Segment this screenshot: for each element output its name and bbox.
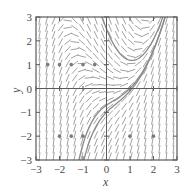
slope-segment xyxy=(92,97,99,102)
point-marker xyxy=(152,134,156,138)
slope-segment xyxy=(159,102,160,110)
slope-segment xyxy=(66,88,69,96)
slope-segment xyxy=(151,60,154,68)
slope-segment xyxy=(60,145,61,153)
slope-segment xyxy=(113,77,121,79)
slope-segment xyxy=(94,31,98,39)
slope-segment xyxy=(129,24,134,31)
slope-segment xyxy=(60,102,62,110)
point-marker xyxy=(46,63,50,67)
slope-segment xyxy=(39,16,41,24)
slope-segment xyxy=(108,124,112,131)
slope-segment xyxy=(151,74,153,82)
slope-segment xyxy=(78,69,86,72)
slope-segment xyxy=(122,103,127,110)
slope-segment xyxy=(109,17,112,25)
slope-segment xyxy=(130,117,133,125)
slope-segment xyxy=(144,88,147,96)
slope-segment xyxy=(53,102,54,110)
slope-segment xyxy=(159,124,160,132)
slope-segment xyxy=(85,62,93,66)
slope-segment xyxy=(101,138,104,146)
slope-segment xyxy=(39,95,40,103)
slope-segment xyxy=(115,124,119,131)
slope-segment xyxy=(152,152,153,160)
slope-segment xyxy=(60,152,61,160)
slope-segment xyxy=(173,38,174,46)
slope-segment xyxy=(137,117,139,125)
slope-segment xyxy=(151,95,153,103)
slope-segment xyxy=(144,124,146,132)
slope-segment xyxy=(108,138,111,146)
slope-segment xyxy=(79,32,84,38)
slope-segment xyxy=(46,52,48,60)
point-marker xyxy=(93,63,97,67)
slope-segment xyxy=(86,96,92,102)
slope-segment xyxy=(53,88,55,96)
slope-segment xyxy=(52,24,55,32)
slope-segment xyxy=(137,131,139,139)
slope-segment xyxy=(85,83,93,86)
slope-segment xyxy=(144,131,146,139)
slope-segment xyxy=(92,77,100,79)
slope-segment xyxy=(122,24,126,32)
slope-segment xyxy=(71,55,79,59)
y-tick-label: 0 xyxy=(27,83,33,95)
slope-segment xyxy=(108,117,113,124)
slope-segment xyxy=(123,138,126,146)
slope-segment xyxy=(79,39,85,44)
slope-segment xyxy=(39,66,40,74)
slope-segment xyxy=(78,55,86,57)
slope-segment xyxy=(173,145,174,153)
slope-segment xyxy=(65,53,70,60)
slope-segment xyxy=(137,145,139,153)
slope-segment xyxy=(107,68,114,73)
slope-segment xyxy=(66,60,70,67)
slope-segment xyxy=(74,145,76,153)
slope-segment xyxy=(60,138,61,146)
slope-segment xyxy=(134,33,142,36)
slope-segment xyxy=(173,131,174,139)
slope-segment xyxy=(137,124,139,132)
slope-segment xyxy=(158,67,160,75)
slope-segment xyxy=(80,96,85,103)
slope-segment xyxy=(120,77,128,78)
slope-segment xyxy=(122,39,127,46)
slope-segment xyxy=(159,88,161,96)
slope-segment xyxy=(108,24,111,32)
slope-segment xyxy=(80,124,83,132)
slope-segment xyxy=(53,145,54,153)
slope-segment xyxy=(39,88,40,96)
slope-segment xyxy=(87,17,90,25)
slope-segment xyxy=(74,124,76,132)
slope-segment xyxy=(101,38,105,45)
slope-segment xyxy=(74,131,76,139)
slope-segment xyxy=(122,31,126,38)
slope-segment xyxy=(127,69,135,72)
slope-segment xyxy=(144,138,146,146)
slope-segment xyxy=(39,116,40,124)
slope-segment xyxy=(144,81,147,89)
y-tick-label: −3 xyxy=(20,154,32,166)
slope-segment xyxy=(166,145,167,153)
slope-segment xyxy=(122,110,126,117)
slope-segment xyxy=(78,47,85,51)
slope-segment xyxy=(80,110,83,118)
slope-segment xyxy=(66,74,69,82)
slope-segment xyxy=(39,52,40,60)
slope-segment xyxy=(173,95,174,103)
slope-segment xyxy=(173,124,174,132)
slope-segment xyxy=(73,88,77,96)
slope-segment xyxy=(106,76,114,79)
slope-segment xyxy=(59,38,63,45)
slope-segment xyxy=(94,24,97,32)
slope-segment xyxy=(115,117,120,124)
slope-segment xyxy=(92,69,99,73)
point-marker xyxy=(81,63,85,67)
slope-segment xyxy=(109,145,112,153)
slope-segment xyxy=(59,52,62,60)
slope-segment xyxy=(149,18,155,24)
slope-segment xyxy=(39,38,40,46)
slope-segment xyxy=(144,95,146,103)
slope-segment xyxy=(173,74,174,82)
